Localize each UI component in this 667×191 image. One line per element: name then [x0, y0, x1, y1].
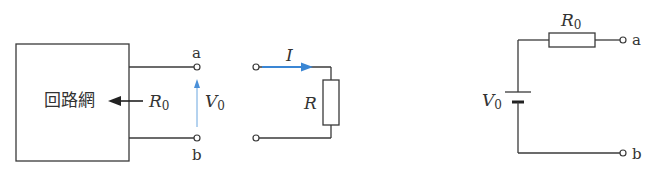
network-label: 回路網 [44, 90, 95, 110]
terminal-b [194, 135, 200, 141]
load-terminal-top [253, 64, 259, 70]
eq-terminal-a [620, 37, 626, 43]
circuit-diagram: 回路網 R0 a b V0 I R a R0 V0 b [0, 0, 667, 191]
load-resistor-label: R [303, 93, 317, 113]
eq-r0-label: R0 [560, 10, 581, 32]
eq-resistor [549, 33, 595, 47]
left-arrow-icon [108, 96, 143, 106]
battery-icon [505, 92, 531, 102]
v0-label: V0 [205, 91, 225, 113]
eq-terminal-a-label: a [632, 31, 641, 49]
load-resistor [323, 80, 339, 125]
eq-terminal-b [620, 150, 626, 156]
r0-label: R0 [148, 91, 169, 113]
eq-terminal-b-label: b [632, 145, 642, 163]
voltage-arrow-icon [194, 79, 200, 127]
terminal-a-label: a [192, 44, 201, 62]
eq-v0-label: V0 [482, 90, 502, 112]
terminal-b-label: b [192, 146, 202, 164]
load-terminal-bottom [253, 135, 259, 141]
current-label: I [285, 45, 293, 65]
terminal-a [194, 64, 200, 70]
